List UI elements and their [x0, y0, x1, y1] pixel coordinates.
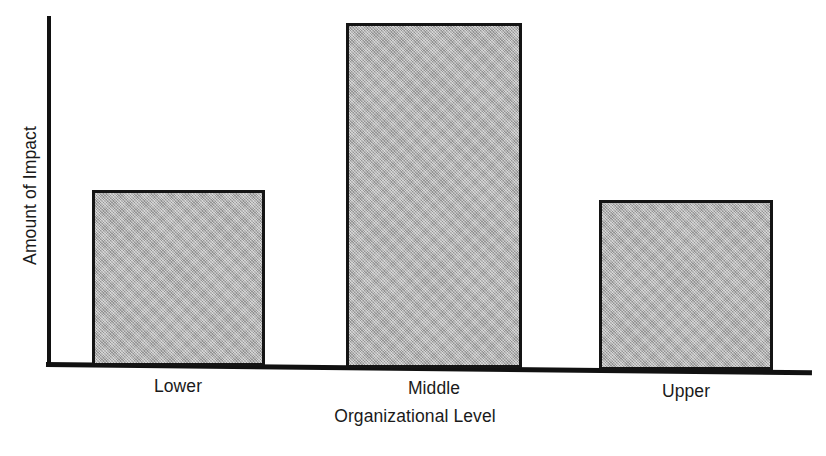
- bar-upper: [599, 200, 773, 370]
- x-tick-label-upper: Upper: [626, 381, 746, 402]
- bar-middle: [346, 23, 522, 368]
- x-tick-label-middle: Middle: [374, 378, 494, 399]
- x-tick-label-lower: Lower: [118, 376, 238, 397]
- bar-chart-figure: Amount of Impact Lower Middle Upper Orga…: [0, 0, 826, 456]
- x-axis-title: Organizational Level: [265, 406, 565, 427]
- bar-lower: [92, 190, 265, 366]
